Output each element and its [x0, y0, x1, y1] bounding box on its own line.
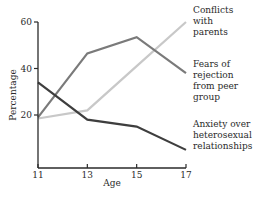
series-label-line: Conflicts	[193, 5, 234, 15]
series-label-0: Conflictswithparents	[193, 5, 234, 37]
y-tick-label: 20	[21, 110, 33, 120]
series-label-2: Anxiety overheterosexualrelationships	[192, 119, 253, 151]
series-line-0	[38, 22, 186, 118]
series-lines	[38, 22, 186, 150]
line-chart: 204060 11131517 Age Percentage Conflicts…	[0, 0, 257, 198]
y-tick-label: 60	[21, 17, 33, 27]
y-axis-ticks: 204060	[21, 17, 38, 120]
series-label-line: Fears of	[193, 59, 231, 69]
series-label-line: group	[193, 92, 220, 102]
x-tick-label: 13	[82, 170, 94, 180]
series-label-line: relationships	[193, 141, 253, 151]
series-label-line: Anxiety over	[192, 119, 251, 129]
y-tick-label: 40	[21, 64, 33, 74]
x-axis-label: Age	[102, 178, 121, 188]
x-tick-label: 11	[32, 170, 43, 180]
series-labels: ConflictswithparentsFears ofrejectionfro…	[192, 5, 253, 151]
x-tick-label: 17	[180, 170, 192, 180]
series-label-line: rejection	[193, 70, 234, 80]
x-tick-label: 15	[131, 170, 143, 180]
series-label-line: parents	[193, 27, 228, 37]
series-label-line: heterosexual	[193, 130, 252, 140]
y-axis-label: Percentage	[8, 69, 18, 121]
axes	[38, 22, 186, 168]
series-label-line: from peer	[193, 81, 239, 91]
series-label-1: Fears ofrejectionfrom peergroup	[193, 59, 239, 102]
series-label-line: with	[193, 16, 213, 26]
series-line-1	[38, 37, 186, 117]
series-line-2	[38, 82, 186, 149]
